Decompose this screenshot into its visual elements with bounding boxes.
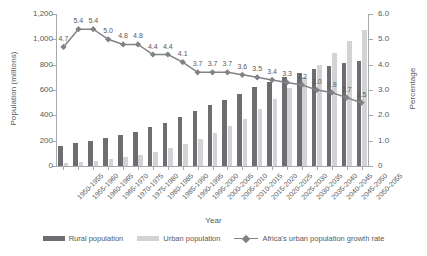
y-tick-label-left: 800	[40, 60, 53, 69]
y-tick-label-right: 4.0	[378, 60, 389, 69]
y-tick-right	[369, 166, 373, 167]
y-tick-right	[369, 14, 373, 15]
x-tick	[138, 166, 139, 170]
y-tick-right	[369, 39, 373, 40]
x-tick	[93, 166, 94, 170]
x-tick	[362, 166, 363, 170]
x-tick	[227, 166, 228, 170]
x-tick	[153, 166, 154, 170]
x-tick	[168, 166, 169, 170]
growth-rate-value: 4.1	[173, 50, 193, 57]
x-tick	[63, 166, 64, 170]
x-tick	[78, 166, 79, 170]
growth-rate-line	[56, 14, 369, 166]
x-tick	[198, 166, 199, 170]
rural-swatch-icon	[43, 236, 65, 241]
growth-rate-value: 4.7	[53, 35, 73, 42]
y-tick-label-left: 1,000	[33, 34, 53, 43]
legend-item-urban: Urban population	[137, 234, 220, 243]
y-tick-right	[369, 65, 373, 66]
x-tick	[242, 166, 243, 170]
chart-legend: Rural population Urban population Africa…	[0, 234, 427, 243]
legend-label-rate: Africa's urban population growth rate	[262, 234, 384, 243]
y-tick-right	[369, 115, 373, 116]
x-tick	[302, 166, 303, 170]
legend-item-rural: Rural population	[43, 234, 124, 243]
y-tick-label-left: 200	[40, 136, 53, 145]
plot-area: 02004006008001,0001,200 01.02.03.04.05.0…	[56, 14, 369, 166]
line-marker-icon	[234, 236, 258, 242]
x-tick	[213, 166, 214, 170]
x-tick	[332, 166, 333, 170]
y-tick-label-right: 0	[378, 161, 382, 170]
x-tick	[347, 166, 348, 170]
legend-label-rural: Rural population	[69, 234, 124, 243]
y-tick-label-right: 3.0	[378, 85, 389, 94]
growth-rate-value: 4.8	[128, 32, 148, 39]
y-tick-label-right: 2.0	[378, 110, 389, 119]
x-tick	[123, 166, 124, 170]
x-tick	[108, 166, 109, 170]
y-axis-right-title: Percentage	[408, 29, 417, 149]
x-axis-title: Year	[0, 216, 427, 225]
y-tick-label-left: 400	[40, 110, 53, 119]
growth-rate-value: 2.5	[352, 91, 372, 98]
y-tick-label-right: 1.0	[378, 136, 389, 145]
x-tick	[287, 166, 288, 170]
y-tick-label-right: 6.0	[378, 9, 389, 18]
y-tick-label-left: 1,200	[33, 9, 53, 18]
x-tick	[257, 166, 258, 170]
growth-rate-value: 5.4	[83, 17, 103, 24]
urban-swatch-icon	[137, 236, 159, 241]
y-tick-label-left: 0	[49, 161, 53, 170]
y-tick-label-right: 5.0	[378, 34, 389, 43]
y-tick-right	[369, 141, 373, 142]
y-axis-left-title: Population (millions)	[9, 29, 18, 149]
y-tick-label-left: 600	[40, 85, 53, 94]
x-tick	[317, 166, 318, 170]
x-tick	[272, 166, 273, 170]
growth-rate-value: 4.4	[158, 43, 178, 50]
legend-label-urban: Urban population	[163, 234, 220, 243]
x-tick	[183, 166, 184, 170]
legend-item-growth-rate: Africa's urban population growth rate	[234, 234, 384, 243]
population-growth-chart: Population (millions) Percentage Year 02…	[0, 0, 427, 256]
